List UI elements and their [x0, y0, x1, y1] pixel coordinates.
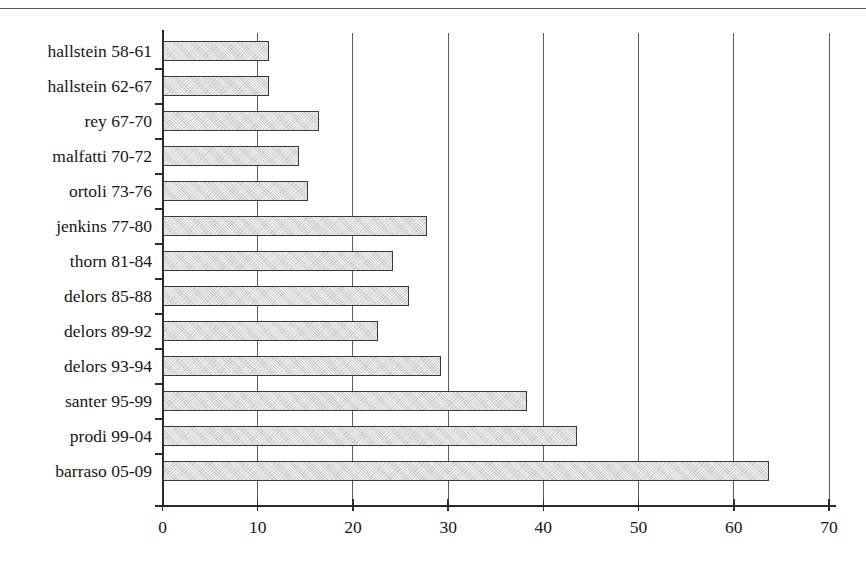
gridline-50	[638, 33, 639, 505]
y-axis-tick-label: jenkins 77-80	[6, 216, 152, 236]
y-axis-tick-label: ortoli 73-76	[6, 181, 152, 201]
x-axis-tick-mark	[733, 499, 735, 511]
x-axis-tick-label: 10	[238, 517, 278, 538]
y-axis-tick-mark	[155, 383, 163, 385]
x-axis-tick-label: 0	[143, 517, 183, 538]
y-axis-tick-mark	[155, 173, 163, 175]
x-axis-tick-mark	[352, 499, 354, 511]
y-axis-tick-label: delors 89-92	[6, 321, 152, 341]
x-axis-tick-label: 60	[714, 517, 754, 538]
y-axis-tick-label: delors 85-88	[6, 286, 152, 306]
y-axis-tick-label: barraso 05-09	[6, 461, 152, 481]
bar	[163, 76, 270, 96]
y-axis-tick-mark	[155, 208, 163, 210]
bar	[163, 181, 309, 201]
plot-area	[163, 33, 830, 505]
x-axis-tick-mark	[257, 499, 259, 511]
x-axis-tick-mark	[828, 499, 830, 511]
y-axis-tick-mark	[155, 278, 163, 280]
bar	[163, 251, 393, 271]
bar	[163, 286, 410, 306]
x-axis-tick-label: 20	[333, 517, 373, 538]
bar	[163, 216, 428, 236]
x-axis-tick-label: 70	[809, 517, 849, 538]
horizontal-bar-chart: hallstein 58-61hallstein 62-67rey 67-70m…	[0, 0, 866, 567]
x-axis-tick-mark	[162, 499, 164, 511]
x-axis-tick-label: 50	[619, 517, 659, 538]
gridline-70	[829, 33, 830, 505]
y-axis-tick-mark	[155, 243, 163, 245]
y-axis-tick-label: thorn 81-84	[6, 251, 152, 271]
y-axis-tick-mark	[155, 68, 163, 70]
y-axis-tick-mark	[155, 453, 163, 455]
y-axis-category-labels: hallstein 58-61hallstein 62-67rey 67-70m…	[0, 0, 152, 567]
x-axis-tick-label: 40	[523, 517, 563, 538]
y-axis-tick-mark	[155, 103, 163, 105]
y-axis-tick-mark	[155, 138, 163, 140]
y-axis-tick-label: hallstein 62-67	[6, 76, 152, 96]
bar	[163, 146, 299, 166]
x-axis-tick-mark	[543, 499, 545, 511]
bar	[163, 426, 577, 446]
bar	[163, 41, 270, 61]
bar	[163, 461, 770, 481]
y-axis-tick-mark	[155, 418, 163, 420]
y-axis-tick-label: santer 95-99	[6, 391, 152, 411]
bar	[163, 321, 378, 341]
bar	[163, 391, 528, 411]
y-axis-tick-label: prodi 99-04	[6, 426, 152, 446]
gridline-60	[733, 33, 734, 505]
x-axis-tick-mark	[638, 499, 640, 511]
y-axis-tick-label: delors 93-94	[6, 356, 152, 376]
y-axis-tick-label: rey 67-70	[6, 111, 152, 131]
x-axis-tick-mark	[447, 499, 449, 511]
y-axis-tick-label: malfatti 70-72	[6, 146, 152, 166]
bar	[163, 356, 441, 376]
y-axis-tick-mark	[155, 348, 163, 350]
x-axis-tick-label: 30	[428, 517, 468, 538]
y-axis-tick-label: hallstein 58-61	[6, 41, 152, 61]
bar	[163, 111, 319, 131]
y-axis-tick-mark	[155, 313, 163, 315]
